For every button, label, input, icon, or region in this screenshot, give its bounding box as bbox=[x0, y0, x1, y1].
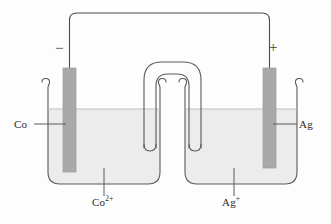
label-cobalt-electrode: Co bbox=[14, 118, 27, 130]
galvanic-cell-diagram: Co Ag Co2+ Ag+ − + bbox=[0, 0, 331, 224]
cobalt-ion-symbol: Co bbox=[92, 196, 105, 208]
cobalt-ion-charge: 2+ bbox=[105, 194, 113, 203]
cell-diagram-canvas bbox=[0, 0, 331, 224]
negative-terminal-sign: − bbox=[55, 41, 63, 56]
salt-bridge-inner-wall bbox=[156, 74, 189, 148]
label-silver-electrode: Ag bbox=[299, 118, 313, 130]
label-cobalt-ion: Co2+ bbox=[92, 196, 114, 208]
positive-terminal-sign: + bbox=[269, 40, 277, 55]
label-silver-ion: Ag+ bbox=[222, 196, 240, 208]
right-solution-fill bbox=[185, 109, 297, 184]
silver-ion-symbol: Ag bbox=[222, 196, 236, 208]
cobalt-electrode bbox=[63, 68, 76, 172]
silver-electrode bbox=[263, 68, 276, 168]
silver-ion-charge: + bbox=[236, 194, 240, 203]
